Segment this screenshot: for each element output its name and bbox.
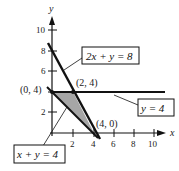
y-axis-arrow-icon (49, 16, 55, 25)
point-label-2-4: (2, 4) (76, 77, 98, 89)
leader-eq1 (64, 58, 82, 70)
x-tick-4: 4 (91, 139, 96, 149)
vertex-2-4 (71, 90, 75, 94)
leader-eq3 (43, 107, 67, 146)
eq1-label: 2x + y = 8 (86, 50, 133, 62)
eq3-label: x + y = 4 (16, 148, 59, 160)
x-tick-8: 8 (131, 139, 136, 149)
y-tick-6: 6 (41, 66, 46, 76)
point-label-4-0: (4, 0) (96, 118, 118, 130)
eq2-label: y = 4 (140, 102, 165, 114)
leader-eq2 (114, 95, 138, 105)
y-axis-label: y (48, 3, 54, 14)
point-label-0-4: (0, 4) (20, 84, 42, 96)
x-axis-arrow-icon (157, 130, 166, 136)
x-tick-10: 10 (148, 139, 158, 149)
y-tick-10: 10 (36, 25, 46, 35)
x-tick-6: 6 (111, 139, 116, 149)
vertex-0-4 (50, 90, 54, 94)
y-tick-8: 8 (41, 46, 46, 56)
feasible-region-graph: 2 4 6 8 10 2 6 8 10 x y (0, 4) (2, 4) (4… (0, 0, 179, 171)
x-tick-2: 2 (70, 139, 75, 149)
x-axis-label: x (169, 127, 175, 138)
y-tick-2: 2 (41, 107, 46, 117)
